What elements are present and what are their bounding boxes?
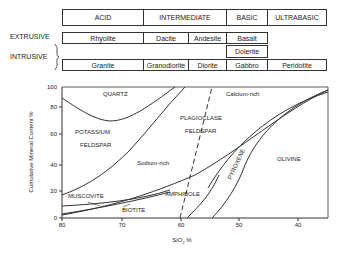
label-feldspar-k: FELDSPAR (80, 142, 112, 148)
label-olivine: OLIVINE (277, 156, 301, 162)
plagioclase-divide (180, 87, 212, 218)
x-tick-50: 50 (236, 222, 243, 228)
x-tick-70: 70 (119, 222, 126, 228)
y-tick-0: 0 (54, 215, 58, 221)
x-axis-label: SiO2 % (172, 237, 192, 245)
y-tick-80: 80 (50, 104, 57, 110)
mineral-content-chart: 0 20 40 60 80 100 80 70 60 50 40 SiO2 % … (0, 0, 338, 255)
label-amphibole: AMPHIBOLE (165, 191, 200, 197)
k-feldspar-boundary (62, 87, 185, 195)
y-tick-60: 60 (50, 131, 57, 137)
label-biotite: BIOTITE (122, 207, 145, 213)
y-tick-40: 40 (50, 162, 57, 168)
label-pyroxene: PYROXENE (226, 148, 246, 181)
x-tick-40: 40 (295, 222, 302, 228)
y-axis-label: Cumulative Mineral Content % (28, 111, 34, 193)
label-quartz: QUARTZ (103, 91, 128, 97)
label-potassium: POTASSIUM (75, 129, 110, 135)
pyroxene-boundary (212, 90, 328, 218)
label-calcium-rich: Calcium-rich (226, 91, 259, 97)
x-tick-80: 80 (59, 222, 66, 228)
y-tick-100: 100 (47, 84, 58, 90)
label-plagioclase: PLAGIOCLASE (180, 115, 222, 121)
label-muscovite: MUSCOVITE (68, 193, 104, 199)
label-feldspar-plag: FELDSPAR (185, 128, 217, 134)
pyroxene-upper-boundary (208, 92, 328, 188)
y-tick-20: 20 (50, 188, 57, 194)
x-tick-60: 60 (178, 222, 185, 228)
label-sodium-rich: Sodium-rich (137, 160, 169, 166)
